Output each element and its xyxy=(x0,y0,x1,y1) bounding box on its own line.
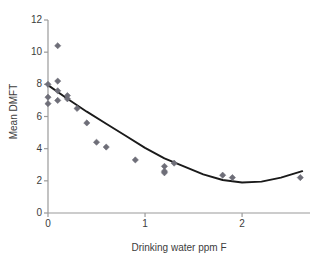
data-point-marker xyxy=(93,139,99,145)
y-tick-label: 4 xyxy=(20,144,42,154)
y-axis-title: Mean DMFT xyxy=(8,57,19,167)
data-point-marker xyxy=(297,175,303,181)
y-tick-label: 2 xyxy=(20,176,42,186)
data-points-layer xyxy=(45,43,303,181)
data-point-marker xyxy=(229,175,235,181)
caption-artifact xyxy=(8,257,148,263)
y-tick-label: 6 xyxy=(20,112,42,122)
y-tick-label: 8 xyxy=(20,79,42,89)
data-point-marker xyxy=(103,144,109,150)
y-tick-label: 10 xyxy=(20,47,42,57)
fitted-curve-layer xyxy=(48,85,302,182)
data-point-marker xyxy=(55,78,61,84)
y-tick-label: 0 xyxy=(20,208,42,218)
figure-scatter-dmft-vs-fluoride: 024681012 012 Drinking water ppm F Mean … xyxy=(0,0,319,266)
data-point-marker xyxy=(45,94,51,100)
data-point-marker xyxy=(45,101,51,107)
data-point-marker xyxy=(55,97,61,103)
data-point-marker xyxy=(220,172,226,178)
x-axis-title: Drinking water ppm F xyxy=(48,242,310,253)
axis-layer xyxy=(44,20,310,217)
y-tick-label: 12 xyxy=(20,15,42,25)
data-point-marker xyxy=(132,157,138,163)
data-point-marker xyxy=(55,43,61,49)
x-tick-label: 1 xyxy=(135,219,155,229)
x-tick-label: 2 xyxy=(232,219,252,229)
fitted-curve xyxy=(48,85,302,182)
data-point-marker xyxy=(84,120,90,126)
x-axis-tick-labels: 012 xyxy=(0,219,319,233)
x-tick-label: 0 xyxy=(38,219,58,229)
